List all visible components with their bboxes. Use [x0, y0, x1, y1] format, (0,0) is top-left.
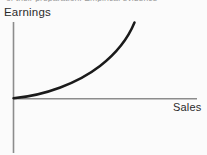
chart-plot-area: [0, 0, 207, 155]
earnings-curve: [14, 23, 135, 99]
chart-figure: of their preparation. Empirical evidence…: [0, 0, 207, 155]
x-axis-label: Sales: [173, 101, 202, 113]
y-axis-label: Earnings: [4, 6, 51, 18]
